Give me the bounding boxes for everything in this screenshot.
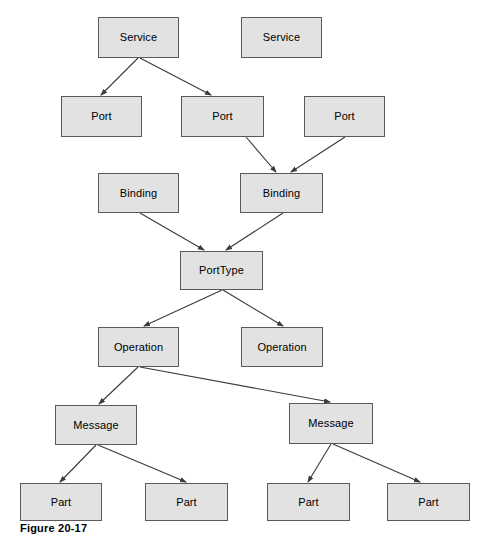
edge-port3-binding2 <box>291 137 345 172</box>
edge-message1-part1 <box>60 445 96 482</box>
node-service-1[interactable]: Service <box>98 17 179 58</box>
wsdl-component-diagram: Service Service Port Port Port Binding B… <box>0 0 487 552</box>
node-label: Operation <box>257 342 306 353</box>
node-label: Operation <box>114 342 163 353</box>
node-part-4[interactable]: Part <box>387 483 470 521</box>
node-part-2[interactable]: Part <box>145 483 228 521</box>
node-label: Part <box>298 497 319 508</box>
node-port-2[interactable]: Port <box>181 96 264 137</box>
edge-service1-port2 <box>140 58 211 95</box>
node-binding-1[interactable]: Binding <box>98 173 179 213</box>
node-label: Message <box>308 418 353 429</box>
edge-porttype-operation2 <box>223 290 283 326</box>
edge-operation1-message1 <box>99 367 138 404</box>
edge-binding1-porttype <box>140 213 204 250</box>
node-label: Part <box>418 497 439 508</box>
node-port-3[interactable]: Port <box>304 96 385 137</box>
edge-operation1-message2 <box>140 367 330 402</box>
node-label: Binding <box>263 188 300 199</box>
node-porttype-1[interactable]: PortType <box>180 251 263 290</box>
edge-binding2-porttype <box>226 213 283 250</box>
edge-service1-port1 <box>101 58 138 95</box>
edge-message2-part4 <box>333 444 420 482</box>
node-label: Port <box>91 111 112 122</box>
node-label: Service <box>120 32 157 43</box>
node-label: Service <box>263 32 300 43</box>
edge-message1-part2 <box>98 445 186 482</box>
node-label: Port <box>334 111 355 122</box>
node-part-3[interactable]: Part <box>267 483 350 521</box>
node-operation-1[interactable]: Operation <box>98 327 179 367</box>
node-operation-2[interactable]: Operation <box>241 327 323 367</box>
node-label: Part <box>51 497 72 508</box>
node-part-1[interactable]: Part <box>20 483 102 521</box>
node-service-2[interactable]: Service <box>241 17 322 58</box>
edge-port2-binding2 <box>246 137 276 172</box>
node-label: Part <box>176 497 197 508</box>
node-port-1[interactable]: Port <box>61 96 142 137</box>
node-binding-2[interactable]: Binding <box>240 173 323 213</box>
node-label: PortType <box>199 265 244 276</box>
node-message-2[interactable]: Message <box>289 403 373 444</box>
node-label: Port <box>212 111 233 122</box>
node-message-1[interactable]: Message <box>55 405 137 445</box>
edge-message2-part3 <box>308 444 331 482</box>
edge-porttype-operation1 <box>144 290 222 326</box>
node-label: Message <box>73 420 118 431</box>
node-label: Binding <box>120 188 157 199</box>
figure-caption: Figure 20-17 <box>20 522 87 534</box>
